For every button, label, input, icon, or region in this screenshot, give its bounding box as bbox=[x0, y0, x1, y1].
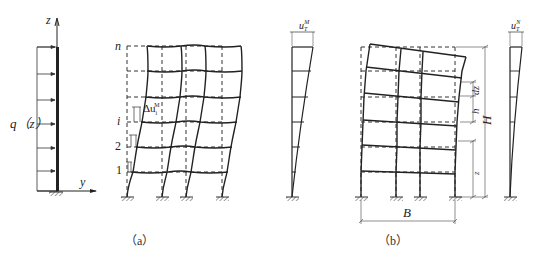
dim-label-H: H bbox=[479, 115, 494, 126]
undeformed-frame-b bbox=[361, 47, 455, 197]
fixed-support-icon bbox=[180, 197, 193, 201]
floor-label-2: 2 bbox=[115, 139, 121, 153]
fixed-support-icon bbox=[449, 197, 462, 201]
frame-a-supports bbox=[121, 197, 229, 201]
top-deflection-label-b: uTN bbox=[511, 19, 521, 32]
load-label: q（z） bbox=[10, 116, 48, 131]
dim-label-z: z bbox=[471, 171, 481, 176]
deformed-frame-b bbox=[361, 44, 466, 197]
caption-a: （a） bbox=[125, 234, 154, 248]
fixed-support-icon bbox=[216, 197, 229, 201]
frame-b-supports bbox=[355, 197, 462, 201]
y-axis-label: y bbox=[79, 175, 86, 189]
top-deflection-label-a: uTM bbox=[299, 19, 310, 32]
profile-a-floor-lines bbox=[292, 71, 311, 172]
cantilever-column bbox=[56, 47, 59, 191]
floor-label-1: 1 bbox=[116, 163, 122, 177]
frame-a-shear-deformation: n i 2 1 ΔuiM bbox=[115, 39, 242, 201]
dim-label-h: h bbox=[469, 108, 481, 114]
fixed-support-icon bbox=[504, 197, 517, 201]
dim-label-B: B bbox=[403, 205, 411, 220]
fixed-support-icon bbox=[121, 197, 134, 201]
dim-label-dz: dz bbox=[470, 86, 481, 95]
fixed-support-icon bbox=[390, 197, 403, 201]
fixed-support-icon bbox=[156, 197, 169, 201]
load-arrows bbox=[37, 46, 55, 173]
fixed-support-icon bbox=[49, 192, 63, 196]
structural-deformation-figure: z y q（z） bbox=[0, 0, 535, 257]
load-diagram: z y q（z） bbox=[10, 13, 97, 196]
caption-b: （b） bbox=[378, 234, 408, 248]
fixed-support-icon bbox=[414, 197, 427, 201]
y-axis-arrow-icon bbox=[90, 189, 97, 193]
fixed-support-icon bbox=[355, 197, 368, 201]
deformed-frame-a bbox=[127, 45, 242, 197]
fixed-support-icon bbox=[286, 197, 299, 201]
deflection-profile-a: uTM bbox=[286, 19, 315, 201]
frame-b-flexural-deformation: H h dz z B bbox=[355, 44, 494, 224]
drift-label: ΔuiM bbox=[143, 102, 160, 116]
deflection-profile-b: uTN bbox=[504, 19, 524, 201]
floor-label-i: i bbox=[117, 114, 120, 128]
z-axis-label: z bbox=[45, 13, 51, 27]
floor-label-n: n bbox=[115, 39, 121, 53]
